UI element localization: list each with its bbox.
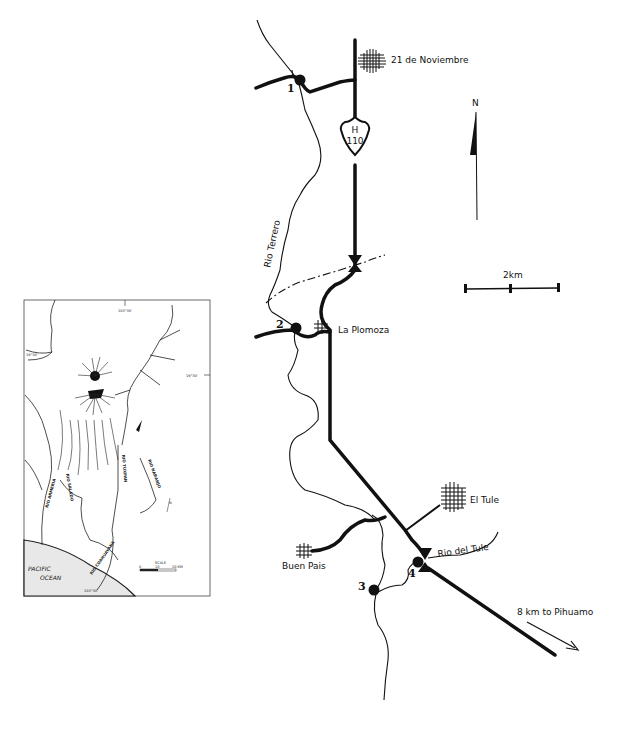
direction-to-pihuamo: 8 km to Pihuamo (517, 607, 594, 650)
town-icon-buen-pais (296, 543, 312, 559)
ocean-label-line2: OCEAN (40, 574, 62, 581)
river-label-terrero: Rio Terrero (262, 219, 282, 269)
direction-note: 8 km to Pihuamo (517, 607, 594, 617)
north-label: N (472, 98, 479, 108)
town-icon-el-tule (441, 482, 466, 512)
road-el-tule (405, 505, 440, 531)
town-icon-21-de-noviembre (358, 49, 386, 73)
scale-tick-0 (464, 284, 467, 293)
site-4-marker (413, 557, 424, 568)
site-4-label: 4 (408, 567, 416, 580)
locality-buen-pais: Buen Pais (282, 561, 326, 571)
ocean-label-line1: PACIFIC (28, 565, 52, 572)
site-2-marker (291, 323, 302, 334)
road-site-1 (256, 76, 355, 92)
inset-scale-tick-10: 10 (155, 565, 159, 569)
crossing-marks (348, 255, 432, 572)
river-label-del-tule: Rio del Tule (437, 542, 490, 559)
inset-coord-bottom: 103°30' (84, 589, 98, 593)
road-buen-pais (312, 517, 385, 551)
site-3-marker (369, 585, 380, 596)
crossing-icon-2 (348, 263, 362, 272)
direction-arrow-icon (566, 641, 578, 650)
inset-scale-tick-20: 20 KM (172, 565, 183, 569)
shield-number: 110 (346, 136, 363, 146)
locality-la-plomoza: La Plomoza (338, 325, 389, 335)
inset-scale-tick-0: 0 (139, 565, 141, 569)
direction-arrow-shaft (527, 622, 575, 648)
inset-north-label: N (169, 501, 172, 505)
site-2-label: 2 (276, 318, 284, 331)
map-canvas: 103°30' 19°30' 19°30' 103°30' PACIFIC OC… (0, 0, 641, 746)
inset-coord-left: 19°30' (26, 353, 38, 357)
highway-shield: H 110 (341, 117, 369, 155)
locality-21-de-noviembre: 21 de Noviembre (391, 55, 469, 65)
shield-letter: H (352, 125, 359, 135)
site-3-label: 3 (358, 580, 366, 593)
inset-coord-top: 103°30' (118, 309, 132, 313)
inset-map: 103°30' 19°30' 19°30' 103°30' PACIFIC OC… (24, 300, 210, 596)
site-1-label: 1 (287, 82, 295, 95)
site-1-marker (295, 75, 306, 86)
north-arrow: N (470, 98, 479, 220)
highway-main-route (321, 270, 424, 555)
scale-tick-2 (557, 283, 560, 292)
locality-el-tule: El Tule (470, 495, 499, 505)
scale-tick-1 (509, 284, 512, 293)
inset-scale-bar-fill (140, 569, 158, 571)
north-arrow-shaft (476, 112, 477, 220)
main-rivers (257, 20, 498, 700)
inset-coord-right: 19°30' (186, 374, 198, 378)
scale-bar: 2km (464, 270, 560, 293)
north-arrow-icon (470, 112, 476, 155)
scale-label: 2km (503, 270, 523, 280)
